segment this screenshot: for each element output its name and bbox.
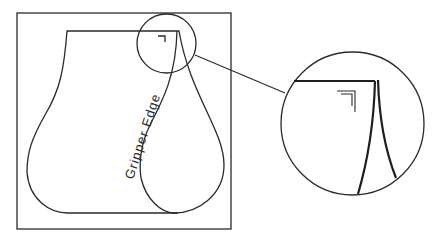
callout-connector-line (195, 55, 285, 93)
corner-mark (158, 36, 165, 42)
sheet-border (17, 13, 231, 229)
gripper-edge-diagram: Gripper Edge (0, 0, 438, 232)
magnified-vase-edge (358, 81, 375, 194)
gripper-edge-label: Gripper Edge (122, 91, 164, 181)
vase-outline (27, 31, 178, 213)
detail-circle-small (137, 14, 196, 73)
detail-circle-magnified (281, 52, 424, 195)
magnified-corner-mark-inner (341, 94, 352, 106)
magnified-drop-edge (378, 80, 396, 178)
